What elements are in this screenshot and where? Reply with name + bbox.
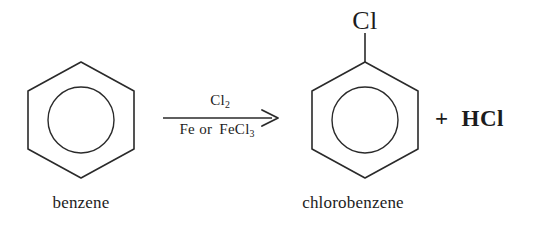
chlorobenzene-structure: [312, 33, 418, 178]
catalyst-conjunction: or: [199, 121, 212, 137]
plus-sign: +: [435, 106, 449, 131]
catalyst-second-subscript: 3: [250, 128, 255, 139]
catalyst-second: FeCl: [219, 121, 249, 137]
catalyst-first: Fe: [179, 121, 195, 137]
arrow-reagent-subscript: 2: [225, 99, 230, 110]
arrow-reagent-label: Cl2: [210, 93, 230, 110]
reactant-name-label: benzene: [52, 194, 109, 211]
benzene-structure: [28, 62, 134, 178]
chlorobenzene-hexagon: [312, 62, 418, 178]
arrow-catalyst-label: Fe orFeCl3: [179, 122, 254, 139]
byproduct-label: + HCl: [435, 107, 504, 130]
byproduct-formula: HCl: [461, 106, 504, 131]
chlorine-substituent-label: Cl: [352, 8, 378, 34]
chlorobenzene-aromatic-circle: [332, 87, 398, 153]
arrow-reagent-symbol: Cl: [210, 92, 225, 108]
benzene-hexagon: [28, 62, 134, 178]
benzene-aromatic-circle: [48, 87, 114, 153]
product-name-label: chlorobenzene: [302, 194, 404, 211]
